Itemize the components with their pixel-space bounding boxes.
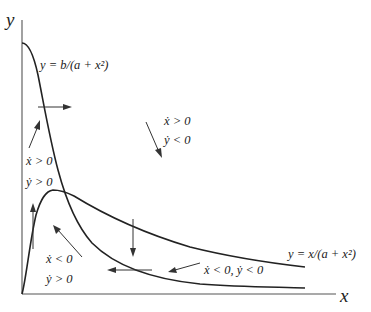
region-bottom-left-label: ẋ < 0 ẏ > 0 xyxy=(46,253,72,285)
condition-y-dot: ẏ > 0 xyxy=(26,176,52,189)
region-bottom-right-label: ẋ < 0, ẏ < 0 xyxy=(204,264,263,277)
condition-x-dot: ẋ > 0 xyxy=(26,155,52,168)
condition-y-dot: ẏ > 0 xyxy=(46,273,72,286)
condition-x-dot: ẋ > 0 xyxy=(164,115,190,128)
equation-x-curve: y = x/(a + x²) xyxy=(288,248,356,261)
x-axis-label: x xyxy=(340,286,348,305)
region-upper-right-label: ẋ > 0 ẏ < 0 xyxy=(164,115,190,146)
arrow-up-right-icon xyxy=(29,120,40,148)
condition-x-dot: ẋ < 0 xyxy=(46,253,72,266)
equation-b-curve: y = b/(a + x²) xyxy=(40,59,109,72)
condition-y-dot: ẏ < 0 xyxy=(164,134,190,147)
region-top-left-label: ẋ > 0 ẏ > 0 xyxy=(26,155,52,188)
arrow-down-left-icon xyxy=(168,263,200,273)
y-axis-label: y xyxy=(6,10,14,29)
arrow-down-right-icon xyxy=(146,122,162,158)
